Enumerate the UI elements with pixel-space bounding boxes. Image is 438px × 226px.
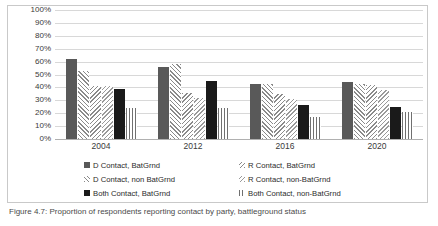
axis-baseline [55, 139, 423, 140]
x-tick-label: 2020 [340, 141, 414, 155]
legend-swatch-icon [84, 162, 90, 168]
legend-label: D Contact, non BatGrnd [93, 175, 175, 184]
bar [390, 107, 401, 139]
legend-label: Both Contact, BatGrnd [93, 189, 170, 198]
y-tick-label: 0% [39, 135, 51, 143]
bar [126, 108, 137, 139]
bar [170, 64, 181, 139]
bar [194, 98, 205, 139]
y-tick-label: 50% [35, 71, 51, 79]
bar [114, 89, 125, 139]
bar-group [66, 10, 137, 139]
legend-swatch-icon [239, 162, 245, 168]
bar [78, 71, 89, 139]
legend-swatch-icon [239, 176, 245, 182]
bar [310, 117, 321, 139]
legend-item-both-contact-non-batgrnd: Both Contact, non-BatGrnd [239, 189, 414, 198]
chart-legend: D Contact, BatGrnd R Contact, BatGrnd D … [8, 158, 429, 202]
legend-swatch-icon [239, 190, 245, 196]
bar [342, 82, 353, 139]
x-tick-label: 2004 [64, 141, 138, 155]
bar [102, 86, 113, 139]
bar [90, 86, 101, 139]
x-axis: 2004 2012 2016 2020 [55, 141, 423, 155]
bar [218, 108, 229, 139]
legend-row: Both Contact, BatGrnd Both Contact, non-… [8, 186, 429, 200]
y-tick-label: 30% [35, 96, 51, 104]
bar [250, 84, 261, 139]
bar [262, 84, 273, 139]
chart-figure: 100% 90% 80% 70% 60% 50% 40% 30% 20% 10%… [7, 5, 428, 203]
bar [402, 112, 413, 139]
legend-label: R Contact, non-BatGrnd [248, 175, 330, 184]
legend-row: D Contact, BatGrnd R Contact, BatGrnd [8, 158, 429, 172]
bar [378, 90, 389, 139]
bar [206, 81, 217, 139]
x-tick-label: 2016 [248, 141, 322, 155]
y-tick-label: 100% [31, 6, 51, 14]
legend-item-r-contact-non-batgrnd: R Contact, non-BatGrnd [239, 175, 414, 184]
y-tick-label: 90% [35, 19, 51, 27]
bar-group [158, 10, 229, 139]
y-tick-label: 80% [35, 32, 51, 40]
y-tick-label: 60% [35, 58, 51, 66]
legend-item-r-contact-batgrnd: R Contact, BatGrnd [239, 161, 414, 170]
bar [274, 94, 285, 139]
legend-label: D Contact, BatGrnd [93, 161, 160, 170]
bar [286, 99, 297, 139]
bar [366, 85, 377, 139]
legend-swatch-icon [84, 176, 90, 182]
bar-group [250, 10, 321, 139]
y-tick-label: 40% [35, 83, 51, 91]
bar [158, 67, 169, 139]
legend-label: Both Contact, non-BatGrnd [248, 189, 341, 198]
legend-item-both-contact-batgrnd: Both Contact, BatGrnd [84, 189, 239, 198]
bar-group [342, 10, 413, 139]
bar [354, 84, 365, 139]
y-axis: 100% 90% 80% 70% 60% 50% 40% 30% 20% 10%… [8, 10, 54, 139]
y-tick-label: 10% [35, 122, 51, 130]
y-tick-label: 20% [35, 109, 51, 117]
figure-caption: Figure 4.7: Proportion of respondents re… [9, 207, 429, 217]
y-tick-label: 70% [35, 45, 51, 53]
legend-swatch-icon [84, 190, 90, 196]
bar [66, 59, 77, 139]
legend-label: R Contact, BatGrnd [248, 161, 315, 170]
bar-groups [55, 10, 423, 139]
legend-item-d-contact-non-batgrnd: D Contact, non BatGrnd [84, 175, 239, 184]
bar [182, 93, 193, 139]
x-tick-label: 2012 [156, 141, 230, 155]
legend-row: D Contact, non BatGrnd R Contact, non-Ba… [8, 172, 429, 186]
legend-item-d-contact-batgrnd: D Contact, BatGrnd [84, 161, 239, 170]
plot-area: 100% 90% 80% 70% 60% 50% 40% 30% 20% 10%… [8, 10, 429, 150]
bar [298, 105, 309, 139]
